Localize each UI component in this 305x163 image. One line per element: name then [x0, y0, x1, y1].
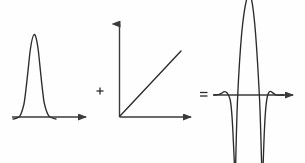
panel-ramp [120, 24, 192, 117]
equals-operator-group [200, 93, 208, 97]
panel-result [213, 0, 293, 163]
plus-operator-group [97, 88, 104, 95]
figure-container: + = [0, 0, 305, 163]
gaussian-curve [13, 34, 56, 119]
equation-figure-svg [0, 0, 305, 163]
result-curve [214, 0, 284, 163]
panel-gaussian [12, 34, 86, 119]
ramp-line [120, 51, 181, 116]
